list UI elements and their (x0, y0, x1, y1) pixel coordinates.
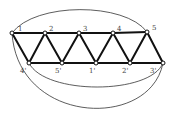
node-1p (94, 61, 98, 65)
edge-2p-5 (130, 32, 147, 63)
node-5p (60, 61, 64, 65)
edges (12, 32, 163, 63)
node-label: 4' (20, 67, 26, 75)
arc-1-5 (12, 10, 147, 33)
node-label: 5 (152, 24, 156, 32)
node-label: 1 (18, 25, 22, 33)
node-2p (128, 61, 132, 65)
node-4 (111, 31, 115, 35)
node-3p (161, 61, 165, 65)
edge-1p-4 (96, 33, 113, 63)
node-label: 1' (89, 67, 95, 75)
node-2 (43, 31, 47, 35)
edge-5-3p (147, 32, 163, 63)
edge-5p-3 (62, 33, 79, 63)
graph-diagram: 123454'5'1'2'3' (0, 0, 171, 124)
node-label: 3' (150, 67, 156, 75)
arcs (12, 10, 163, 109)
edge-4-2p (113, 33, 130, 63)
node-1 (10, 31, 14, 35)
node-label: 4 (117, 25, 122, 33)
node-label: 2' (122, 67, 128, 75)
node-4p (27, 61, 31, 65)
node-label: 5' (55, 67, 61, 75)
node-3 (77, 31, 81, 35)
node-5 (145, 30, 149, 34)
arc-4p-3p (29, 63, 163, 87)
node-label: 2 (49, 25, 53, 33)
edge-3-1p (79, 33, 96, 63)
node-label: 3 (83, 25, 87, 33)
edge-4p-2 (29, 33, 45, 63)
edge-2-5p (45, 33, 62, 63)
